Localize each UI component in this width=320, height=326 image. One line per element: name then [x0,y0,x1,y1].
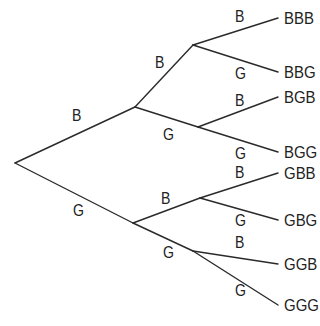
outcome-gbb: GBB [284,165,316,182]
probability-tree-diagram [0,0,320,326]
outcome-bbb: BBB [284,10,314,27]
branch-label-bg-g: G [235,146,246,162]
branch-label-b-g: G [163,127,174,143]
branch-line-l2-1 [135,107,198,127]
outcome-ggb: GGB [284,256,317,273]
branch-label-gg-g: G [235,283,246,299]
branch-label-g-g: G [163,245,174,261]
branch-label-bg-b: B [235,93,244,109]
branch-label-bb-b: B [235,9,244,25]
branch-label-gb-b: B [235,165,244,181]
outcome-ggg: GGG [284,297,319,314]
outcome-gbg: GBG [284,212,317,229]
branch-line-l3-6 [193,251,278,264]
branch-label-g-b: B [161,191,170,207]
branch-label-b-b: B [155,55,164,71]
branch-label-g: G [73,203,84,219]
outcome-bgg: BGG [284,144,317,161]
branch-label-b: B [72,108,81,124]
branch-label-gb-g: G [235,213,246,229]
branch-label-bb-g: G [235,66,246,82]
outcome-bgb: BGB [284,89,316,106]
outcome-bbg: BBG [284,64,316,81]
branch-label-gg-b: B [235,235,244,251]
